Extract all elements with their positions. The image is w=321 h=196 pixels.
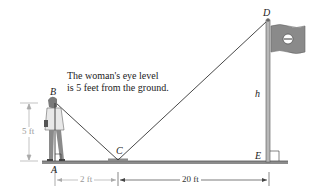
label-height-h: h xyxy=(255,89,260,99)
label-point-D: D xyxy=(263,8,270,18)
ground xyxy=(42,161,288,164)
eye-level-note-line2: is 5 feet from the ground. xyxy=(67,82,169,94)
eye-level-note: The woman's eye level is 5 feet from the… xyxy=(67,70,169,94)
flag-pole xyxy=(266,18,270,162)
label-distance-CE: 20 ft xyxy=(180,175,201,184)
woman-figure xyxy=(44,97,65,161)
flag xyxy=(271,25,305,54)
right-angle-E xyxy=(270,151,279,161)
label-distance-AC: 2 ft xyxy=(78,175,94,184)
eye-level-note-line1: The woman's eye level xyxy=(67,70,169,82)
label-point-C: C xyxy=(116,146,123,156)
label-eye-height: 5 ft xyxy=(20,127,36,136)
similar-triangles-diagram xyxy=(0,0,321,196)
label-point-B: B xyxy=(50,87,56,97)
label-point-E: E xyxy=(255,151,261,161)
label-point-A: A xyxy=(51,165,57,175)
